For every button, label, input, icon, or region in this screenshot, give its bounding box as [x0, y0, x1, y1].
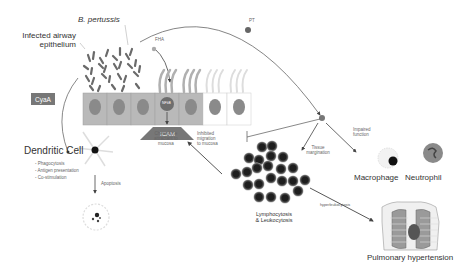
pt-dot — [245, 27, 251, 33]
cyaa-badge: CyaA — [31, 93, 55, 105]
bacteria-cluster — [84, 48, 140, 91]
macrophage-label: Macrophage — [354, 173, 398, 182]
dendritic-cell-title: Dendritic Cell — [24, 145, 83, 157]
apoptotic-cell — [83, 204, 109, 230]
fha-label: FHA — [155, 37, 164, 42]
pulmonary-hypertension-label: Pulmonary hypertension — [367, 253, 453, 262]
chest-illustration — [382, 202, 439, 250]
dc-function-item: Co-stimulation — [35, 174, 79, 181]
tissue-line-2: margination — [303, 150, 333, 155]
inhibited-line-3: to mucosa — [197, 141, 218, 146]
tissue-margination-label: Tissue margination — [303, 145, 333, 155]
dc-function-item: Antigen presentation — [35, 167, 79, 174]
lymphocytosis-label: Lymphocytosis & Leukocytosis — [249, 211, 299, 224]
impaired-line-2: function — [353, 132, 371, 137]
b-pertussis-label: B. pertussis — [78, 15, 120, 24]
lymphocyte-cluster — [231, 141, 311, 204]
inhibited-migration-label: Inhibited migration to mucosa — [197, 131, 218, 147]
hyperleukocytosis-label: hyperleukocytosis — [320, 203, 350, 207]
dc-function-item: Phagocytosis — [35, 160, 79, 167]
chemokine-label: Chemokine attractant to mucosa — [146, 131, 186, 147]
fha-dot — [152, 47, 156, 51]
chemokine-arrow — [188, 142, 222, 174]
inhibited-migration-line — [247, 119, 320, 137]
cyaa-arc — [62, 78, 78, 152]
chemokine-line-3: mucosa — [146, 141, 186, 146]
apoptosis-label: Apoptosis — [101, 181, 121, 186]
pt-label: PT — [249, 18, 255, 23]
infected-line-2: epithelium — [20, 40, 76, 49]
infected-line-1: Infected airway — [20, 31, 76, 40]
nfkb-label: NFkB — [162, 101, 171, 105]
immune-node — [319, 115, 325, 121]
lympho-line-2: & Leukocytosis — [249, 217, 299, 223]
dendritic-cell-functions: Phagocytosis Antigen presentation Co-sti… — [35, 160, 79, 181]
impaired-function-label: Impaired function — [353, 127, 371, 137]
neutrophil-cell — [423, 143, 443, 163]
neutrophil-label: Neutrophil — [405, 173, 441, 182]
infected-epithelium-label: Infected airway epithelium — [20, 31, 76, 49]
